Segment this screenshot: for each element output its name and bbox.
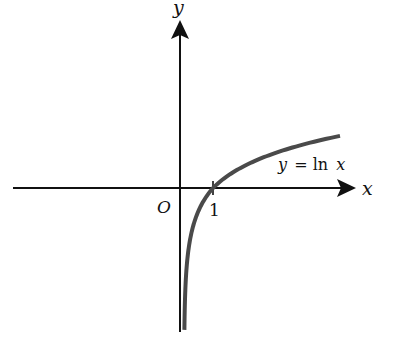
curve-equation-label: y = ln x	[277, 155, 345, 174]
x-axis-label: x	[362, 177, 373, 199]
origin-label: O	[157, 197, 171, 217]
y-axis-label: y	[172, 0, 184, 18]
curve-eq-x: x	[336, 155, 345, 174]
curve-eq-middle: = ln	[294, 155, 328, 174]
ln-graph: y x O 1 y = ln x	[0, 0, 399, 348]
tick-one-label: 1	[209, 200, 220, 220]
curve-eq-y: y	[277, 155, 288, 174]
